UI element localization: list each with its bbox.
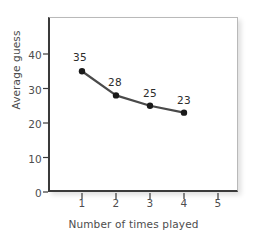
y-tick-label: 0 xyxy=(20,188,42,199)
x-axis-title: Number of times played xyxy=(0,218,267,230)
data-point-marker xyxy=(113,92,119,98)
x-axis-tick-labels: 1 2 3 4 5 xyxy=(0,198,267,214)
data-series-line xyxy=(82,71,184,112)
data-point-marker xyxy=(147,103,153,109)
data-point-markers xyxy=(79,68,187,116)
y-axis-tick-marks xyxy=(43,54,48,192)
data-value-label: 25 xyxy=(143,88,157,99)
x-tick-label: 4 xyxy=(174,198,194,209)
chart-figure: 0 10 20 30 40 1 2 3 4 5 35 28 25 23 Aver… xyxy=(0,0,267,243)
x-tick-label: 5 xyxy=(208,198,228,209)
data-value-label: 35 xyxy=(73,52,87,63)
x-tick-label: 2 xyxy=(106,198,126,209)
x-tick-label: 1 xyxy=(72,198,92,209)
data-value-label: 28 xyxy=(108,77,122,88)
data-point-marker xyxy=(181,109,187,115)
data-value-label: 23 xyxy=(177,95,191,106)
data-point-marker xyxy=(79,68,85,74)
y-axis-title: Average guess xyxy=(10,0,22,140)
y-tick-label: 10 xyxy=(20,154,42,165)
y-axis-title-wrapper: Average guess xyxy=(10,0,26,140)
x-tick-label: 3 xyxy=(140,198,160,209)
